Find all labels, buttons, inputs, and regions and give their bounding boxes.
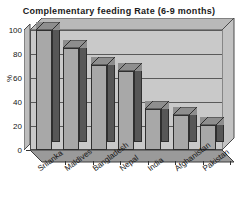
bar-nepal bbox=[118, 71, 134, 150]
x-tick-mark-6 bbox=[230, 161, 231, 165]
plot-area bbox=[30, 30, 222, 150]
bar-face bbox=[63, 48, 79, 150]
bar-india bbox=[145, 109, 161, 150]
bar-side bbox=[134, 63, 142, 142]
bar-top bbox=[145, 101, 169, 109]
bar-face bbox=[145, 109, 161, 150]
bar-face bbox=[118, 71, 134, 150]
chart-title: Complementary feeding Rate (6-9 months) bbox=[0, 6, 238, 16]
bar-face bbox=[91, 65, 107, 150]
y-tick-label-0: 0 bbox=[18, 146, 22, 155]
bar-afghanistan bbox=[173, 115, 189, 150]
y-tick-label-20: 20 bbox=[13, 122, 22, 131]
gridline-100 bbox=[31, 30, 223, 31]
y-tick-label-80: 80 bbox=[13, 50, 22, 59]
bar-top bbox=[63, 40, 87, 48]
bar-bangladesh bbox=[91, 65, 107, 150]
y-tick-label-100: 100 bbox=[9, 26, 22, 35]
bar-side bbox=[107, 57, 115, 142]
bar-chart: Complementary feeding Rate (6-9 months) … bbox=[0, 0, 238, 204]
y-tick-label-60: 60 bbox=[13, 74, 22, 83]
bar-face bbox=[173, 115, 189, 150]
bar-face bbox=[36, 30, 52, 150]
bar-top bbox=[173, 107, 197, 115]
y-tick-label-40: 40 bbox=[13, 98, 22, 107]
bar-srilanka bbox=[36, 30, 52, 150]
bar-top bbox=[36, 22, 60, 30]
chart-ceiling-3d bbox=[30, 18, 234, 30]
gridline-80 bbox=[31, 54, 223, 55]
bar-top bbox=[91, 57, 115, 65]
bar-top bbox=[118, 63, 142, 71]
bar-maldives bbox=[63, 48, 79, 150]
bar-side bbox=[79, 40, 87, 142]
bar-top bbox=[200, 117, 224, 125]
bar-side bbox=[52, 22, 60, 142]
